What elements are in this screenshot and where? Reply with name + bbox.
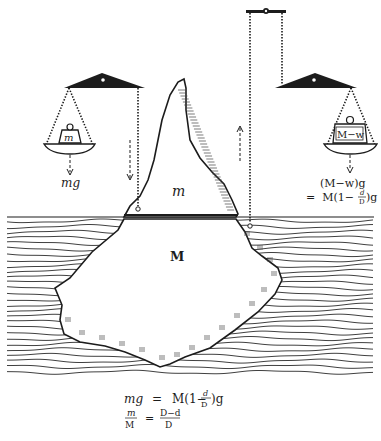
- left-balance: m mg: [44, 73, 145, 211]
- left-weight-handle: [67, 124, 73, 130]
- water-wave-line: [7, 359, 373, 363]
- eq1-equals: =: [152, 392, 162, 406]
- top-hanger: [237, 8, 286, 228]
- right-force-line1: (M−w)g: [320, 177, 366, 190]
- iceberg-submerged: [55, 219, 282, 367]
- left-pan: [44, 144, 95, 154]
- eq1-rhs-suffix: )g: [211, 392, 224, 406]
- right-balance-pivot: [312, 78, 316, 82]
- right-balance-beam: [275, 73, 357, 88]
- eq2-lhs-den: M: [125, 420, 134, 430]
- eq2-rhs-den: D: [165, 420, 172, 430]
- eq2-equals: =: [145, 412, 154, 425]
- iceberg-buoyancy-diagram: m M m mg: [0, 0, 381, 441]
- eq1-lhs: mg: [124, 392, 143, 406]
- iceberg-above-label: m: [172, 183, 185, 199]
- water-wave-line: [7, 370, 373, 374]
- right-force-line2-suffix: )g: [366, 191, 377, 204]
- left-hook: [136, 207, 140, 211]
- left-weight-label: m: [64, 132, 73, 143]
- eq1-fraction-den: D: [201, 400, 207, 409]
- eq2-rhs-num: D−d: [160, 408, 181, 418]
- equations: mg = M(1− d D )g m M = D−d D: [124, 389, 224, 430]
- right-weight-label: M−w: [337, 129, 365, 140]
- eq1-fraction-num: d: [203, 389, 208, 398]
- left-balance-pivot: [101, 78, 105, 82]
- right-hook: [248, 224, 252, 228]
- water-wave-line: [7, 365, 373, 369]
- right-force-fraction-num: d: [360, 189, 365, 197]
- iceberg-below-label: M: [170, 249, 184, 264]
- right-force-fraction-den: D: [359, 198, 365, 206]
- right-force-line2-prefix: = M(1−: [306, 191, 354, 204]
- top-hanger-pivot-center: [265, 10, 267, 12]
- right-pan: [324, 144, 377, 154]
- eq2-lhs-num: m: [127, 408, 136, 418]
- right-balance: M−w (M−w)g = M(1− d D )g: [275, 73, 377, 206]
- left-force-label: mg: [61, 176, 80, 190]
- right-weight-handle: [347, 117, 354, 124]
